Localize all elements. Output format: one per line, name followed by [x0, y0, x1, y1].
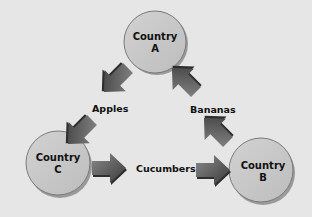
apples-arrow-1	[91, 56, 138, 103]
country-a-label-line1: Country	[133, 31, 178, 42]
country-a-label-line2: A	[151, 43, 159, 54]
country-c-label-line1: Country	[36, 152, 81, 163]
country-b-label-line2: B	[259, 172, 267, 183]
cucumbers-arrow-2	[196, 155, 231, 187]
apples-label: Apples	[92, 103, 129, 114]
country-b-node: Country B	[229, 138, 295, 205]
cucumbers-arrow-1	[92, 153, 127, 185]
country-b-label-line1: Country	[241, 160, 286, 171]
trade-cycle-diagram: Country A Country C Country B Apples Cuc…	[0, 0, 312, 217]
cucumbers-label: Cucumbers	[136, 163, 196, 174]
country-a-node: Country A	[124, 11, 188, 75]
country-c-label-line2: C	[54, 164, 61, 175]
bananas-label: Bananas	[190, 104, 236, 115]
